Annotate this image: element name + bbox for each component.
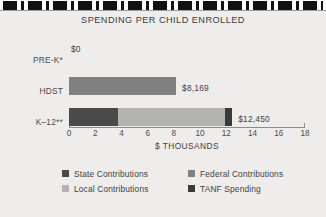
bar-segment — [69, 108, 118, 126]
x-tick-label: 18 — [300, 129, 309, 138]
x-tick-label: 14 — [248, 129, 257, 138]
plot-area: PRE-K*$0HDST$8,169K–12**$12,450 — [69, 36, 305, 128]
dashed-pattern — [3, 1, 323, 10]
legend-swatch-icon — [62, 185, 69, 192]
bar-segment — [118, 108, 226, 126]
legend-label: TANF Spending — [200, 184, 261, 194]
bar-row: K–12**$12,450 — [69, 98, 305, 128]
legend-swatch-icon — [62, 170, 69, 177]
bar-value-label: $8,169 — [182, 83, 209, 93]
legend-item: Local Contributions — [62, 184, 188, 194]
x-tick-label: 0 — [67, 129, 72, 138]
category-label: K–12** — [36, 117, 63, 127]
bar-value-label: $0 — [71, 44, 81, 54]
x-tick-label: 10 — [196, 129, 205, 138]
legend-item: State Contributions — [62, 169, 188, 179]
legend-item: TANF Spending — [188, 184, 312, 194]
legend-label: Local Contributions — [74, 184, 149, 194]
chart-title: SPENDING PER CHILD ENROLLED — [0, 15, 326, 25]
stacked-bar — [69, 77, 176, 95]
bar-row: HDST$8,169 — [69, 67, 305, 97]
rule-baseline — [0, 10, 326, 11]
bar-row: PRE-K*$0 — [69, 36, 305, 66]
x-tick-label: 12 — [222, 129, 231, 138]
bar-segment — [69, 77, 176, 95]
bar-segment — [225, 108, 232, 126]
x-axis-tick-labels: 024681012141618 — [69, 129, 305, 141]
decorative-dashed-rule — [0, 0, 326, 11]
legend-swatch-icon — [188, 185, 195, 192]
stacked-bar — [69, 108, 232, 126]
legend-swatch-icon — [188, 170, 195, 177]
category-label: PRE-K* — [33, 55, 63, 65]
x-tick-label: 16 — [274, 129, 283, 138]
chart-legend: State ContributionsFederal Contributions… — [62, 166, 312, 196]
x-tick-label: 8 — [172, 129, 177, 138]
x-tick-label: 4 — [119, 129, 124, 138]
x-axis-title: $ THOUSANDS — [69, 141, 305, 151]
x-tick-label: 2 — [93, 129, 98, 138]
x-tick-label: 6 — [145, 129, 150, 138]
legend-item: Federal Contributions — [188, 169, 312, 179]
chart-figure: SPENDING PER CHILD ENROLLED PRE-K*$0HDST… — [0, 0, 326, 217]
legend-label: Federal Contributions — [200, 169, 283, 179]
legend-label: State Contributions — [74, 169, 148, 179]
category-label: HDST — [39, 86, 63, 96]
bar-value-label: $12,450 — [238, 114, 270, 124]
